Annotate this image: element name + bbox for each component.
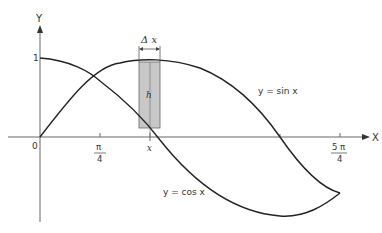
x-tick-label: x [147,143,152,153]
diagram-canvas: Y X 0 1 π 4 x 5 π 4 Δ x h y = sin x y = … [0,0,382,233]
y-tick-label-1: 1 [33,53,39,63]
pi-over-4-den: 4 [97,154,102,164]
delta-x-arrowhead-right-icon [156,47,160,51]
origin-label: 0 [32,141,38,151]
y-axis-label: Y [35,13,43,24]
5pi-over-4-num: 5 π [332,142,345,152]
y-axis-arrow-icon [37,25,43,33]
pi-over-4-num: π [96,142,101,152]
delta-x-label: Δ x [140,34,157,45]
sin-curve-label: y = sin x [258,86,298,96]
5pi-over-4-den: 4 [337,154,342,164]
x-axis-label: X [372,132,379,143]
strip-height-label: h [146,90,152,100]
delta-x-arrowhead-left-icon [139,47,143,51]
x-axis-arrow-icon [362,134,370,140]
cos-curve-label: y = cos x [163,187,206,197]
